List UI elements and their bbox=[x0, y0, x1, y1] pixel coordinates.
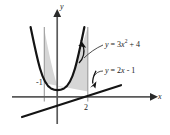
parabola-equation-label: y = 3x2 + 4 bbox=[105, 41, 140, 49]
line-curve bbox=[22, 85, 121, 117]
line-eq-equals: = bbox=[109, 66, 118, 75]
parabola-eq-plus: + bbox=[127, 40, 136, 49]
graph-figure: y x -1 2 y = 3x2 + 4 y = 2x - 1 bbox=[0, 0, 170, 135]
line-label-leader-curl bbox=[93, 71, 96, 84]
y-axis-label: y bbox=[60, 3, 64, 11]
line-equation-label: y = 2x - 1 bbox=[105, 67, 135, 75]
parabola-eq-equals: = bbox=[109, 40, 118, 49]
parabola-eq-constant: 4 bbox=[136, 40, 140, 49]
line-eq-constant: 1 bbox=[131, 66, 135, 75]
x-tick-label-neg-one: -1 bbox=[36, 79, 43, 87]
x-axis-arrowhead bbox=[150, 93, 158, 101]
x-tick-label-two: 2 bbox=[84, 104, 88, 112]
plot-canvas bbox=[0, 0, 170, 135]
x-axis-label: x bbox=[158, 93, 162, 101]
